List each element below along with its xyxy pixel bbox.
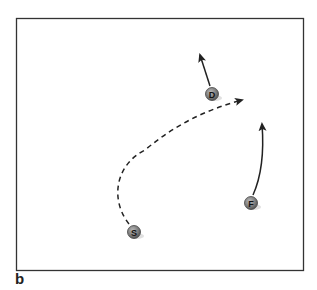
player-d-label: D [209, 90, 216, 100]
panel-label: b [15, 270, 24, 287]
diagram-canvas: D S F [0, 0, 317, 290]
player-s-label: S [131, 228, 137, 238]
field-frame [17, 19, 304, 271]
player-f-label: F [248, 199, 254, 209]
